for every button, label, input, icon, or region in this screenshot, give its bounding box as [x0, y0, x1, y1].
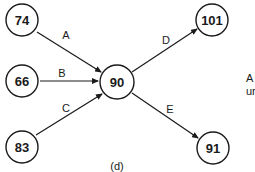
node-91: 91	[197, 132, 229, 164]
node-label-83: 83	[15, 140, 29, 155]
edge-a: A	[37, 29, 101, 72]
edge-b: B	[40, 67, 98, 81]
edge-label-d: D	[162, 34, 170, 46]
network-diagram: A B C D E 74 66 83 90 101 91 (d)	[0, 0, 255, 172]
node-label-74: 74	[15, 13, 30, 28]
node-label-101: 101	[201, 13, 223, 28]
edge-label-c: C	[62, 102, 70, 114]
node-74: 74	[6, 4, 38, 36]
node-83: 83	[6, 131, 38, 163]
edge-label-a: A	[62, 29, 70, 41]
node-101: 101	[196, 4, 228, 36]
figure-caption: (d)	[110, 160, 123, 172]
edge-e: E	[132, 93, 198, 138]
node-66: 66	[6, 65, 38, 97]
node-label-91: 91	[206, 141, 220, 156]
node-90: 90	[100, 65, 134, 99]
side-text-line1: A	[246, 72, 254, 84]
edge-c: C	[36, 94, 102, 135]
edge-label-b: B	[58, 67, 65, 79]
side-text-line2: ur	[246, 85, 255, 97]
node-label-66: 66	[15, 74, 29, 89]
edge-label-e: E	[166, 103, 173, 115]
node-label-90: 90	[110, 75, 124, 90]
edge-d: D	[132, 29, 197, 72]
